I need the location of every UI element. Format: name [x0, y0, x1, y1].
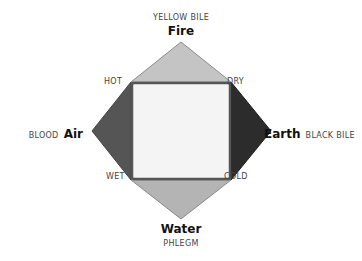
hot-label: HOT [104, 77, 122, 86]
bottom-humor-label: PHLEGM [163, 239, 198, 248]
wet-label: WET [106, 172, 125, 181]
left-humor-label: BLOOD [29, 131, 59, 140]
bottom-element-label: Water [161, 222, 202, 236]
left-label-group: BLOOD Air [29, 123, 83, 142]
center-square [132, 83, 230, 179]
top-element-label: Fire [168, 24, 194, 38]
right-humor-label: BLACK BILE [306, 131, 355, 140]
air-quadrant [92, 82, 131, 180]
dry-label: DRY [227, 77, 244, 86]
top-humor-label: YELLOW BILE [153, 13, 209, 22]
water-quadrant [131, 180, 231, 219]
right-element-label: Earth [264, 127, 301, 141]
left-element-label: Air [64, 127, 83, 141]
fire-quadrant [131, 42, 231, 82]
right-label-group: Earth BLACK BILE [264, 123, 355, 142]
cold-label: COLD [224, 172, 248, 181]
